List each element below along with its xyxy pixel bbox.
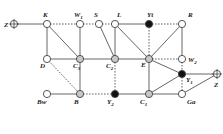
node-label-C3: C3	[73, 62, 81, 71]
edge-Y1-C1-solid	[149, 74, 182, 94]
node-Z_left	[9, 19, 19, 29]
open-node-icon	[95, 20, 102, 27]
node-label-W2: W2	[188, 56, 197, 65]
open-node-icon	[76, 20, 83, 27]
gray-node-icon	[76, 90, 83, 97]
node-label-Y2: Y2	[107, 98, 114, 107]
node-Y2	[111, 90, 118, 97]
node-label-C2: C2	[106, 62, 114, 71]
gray-node-icon	[145, 55, 152, 62]
node-Z_right	[212, 69, 222, 79]
node-W1	[76, 20, 83, 27]
filled-node-icon	[178, 70, 185, 77]
edge-L-E-solid	[115, 24, 149, 59]
edge-S-C2-solid	[99, 24, 115, 59]
node-C1	[145, 90, 152, 97]
filled-node-icon	[145, 20, 152, 27]
node-E	[145, 55, 152, 62]
node-label-Z_left: Z	[3, 21, 9, 29]
node-label-Ga: Ga	[187, 98, 196, 106]
node-L	[111, 20, 118, 27]
open-node-icon	[111, 20, 118, 27]
node-label-Y1: Y1	[186, 76, 193, 85]
node-C2	[111, 55, 118, 62]
node-label-K: K	[42, 11, 49, 19]
node-K	[43, 20, 50, 27]
node-label-D: D	[39, 62, 45, 70]
edge-E-Y1-solid	[149, 59, 182, 74]
edge-R-E-solid	[149, 24, 182, 59]
node-Yt	[145, 20, 152, 27]
node-label-L: L	[116, 11, 121, 19]
gray-node-icon	[111, 55, 118, 62]
node-W2	[178, 55, 185, 62]
node-B	[76, 90, 83, 97]
open-node-icon	[43, 90, 50, 97]
node-S	[95, 20, 102, 27]
open-node-icon	[178, 90, 185, 97]
node-label-R: R	[187, 11, 193, 19]
node-label-W1: W1	[74, 11, 83, 20]
gray-node-icon	[145, 90, 152, 97]
node-Y1	[178, 70, 185, 77]
node-label-Z_right: Z	[213, 81, 219, 89]
open-node-icon	[43, 20, 50, 27]
edge-K-C3-solid	[47, 24, 80, 59]
network-diagram: ZKW1SLYtRDC3C2EW2Y1ZBwBY2C1Ga	[0, 0, 223, 134]
node-label-C1: C1	[140, 98, 147, 107]
node-Ga	[178, 90, 185, 97]
node-label-E: E	[140, 61, 146, 69]
open-node-icon	[178, 20, 185, 27]
node-label-Bw: Bw	[36, 98, 47, 106]
node-label-B: B	[73, 98, 79, 106]
node-label-Yt: Yt	[147, 11, 154, 19]
node-label-S: S	[94, 11, 98, 19]
filled-node-icon	[111, 90, 118, 97]
node-R	[178, 20, 185, 27]
open-node-icon	[178, 55, 185, 62]
node-Bw	[43, 90, 50, 97]
